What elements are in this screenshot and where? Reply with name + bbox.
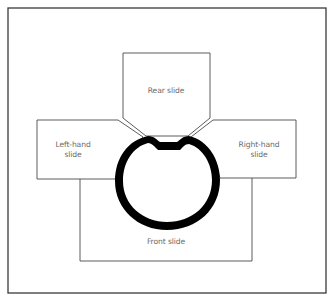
left-hand-slide-label: Left-hand slide (55, 140, 90, 160)
right-hand-slide-label: Right-hand slide (239, 140, 280, 160)
right-hand-slide-text-line2: slide (239, 150, 280, 160)
rear-slide-text: Rear slide (148, 86, 184, 95)
left-hand-slide-text-line2: slide (55, 150, 90, 160)
front-slide (80, 178, 252, 261)
left-hand-slide-text-line1: Left-hand (55, 140, 90, 150)
slides-diagram (0, 0, 332, 297)
front-slide-text: Front slide (147, 237, 185, 246)
right-hand-slide-text-line1: Right-hand (239, 140, 280, 150)
rear-slide-label: Rear slide (148, 86, 184, 96)
front-slide-label: Front slide (147, 237, 185, 247)
